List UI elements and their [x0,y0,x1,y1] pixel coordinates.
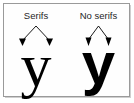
glyph-sans-y: y [66,34,131,94]
panel-no-serifs: No serifs y [66,4,131,98]
glyph-serif-y-char: y [21,31,52,99]
typography-figure: Serifs y No serifs [0,0,134,103]
caption-serifs: Serifs [4,10,68,21]
glyph-serif-y: y [4,34,68,96]
figure-frame: Serifs y No serifs [3,3,130,97]
panel-serifs: Serifs y [4,4,68,98]
glyph-sans-y-char: y [82,30,115,97]
caption-no-serifs: No serifs [66,10,131,21]
